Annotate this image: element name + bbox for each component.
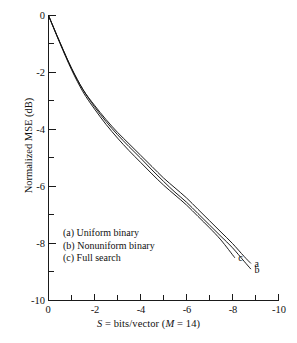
legend-entry-c: (c) Full search [63,252,155,265]
x-tick-label: -4 [137,304,146,315]
curve-end-label-c: c [238,252,243,263]
x-tick-label: -10 [272,304,286,315]
y-tick-label: -10 [31,295,45,306]
plot-canvas: 0 -2 -4 -6 -8 -10 0 -2 -4 -6 -8 -10 c a … [0,0,297,343]
y-tick-label: -4 [36,124,45,135]
curve-end-label-b: b [254,264,259,275]
legend-entry-a: (a) Uniform binary [63,227,155,240]
legend-entry-b: (b) Nonuniform binary [63,240,155,253]
y-tick-label: -2 [36,67,45,78]
curve-c-full-search [49,16,235,258]
x-axis-title-text: S = bits/vector (M = 14) [97,318,200,329]
y-axis-title: Normalized MSE (dB) [23,56,34,236]
curve-end-labels: c a b [238,252,259,274]
x-tick-label: -6 [183,304,192,315]
x-tick-label: 0 [45,304,50,315]
x-tick-labels: 0 -2 -4 -6 -8 -10 [45,304,286,315]
y-tick-label: 0 [40,10,45,21]
y-tick-label: -8 [36,238,45,249]
x-axis-ticks [49,294,279,301]
x-axis-title: S = bits/vector (M = 14) [0,318,297,329]
figure-container: 0 -2 -4 -6 -8 -10 0 -2 -4 -6 -8 -10 c a … [0,0,297,343]
y-tick-label: -6 [36,181,45,192]
legend: (a) Uniform binary (b) Nonuniform binary… [63,227,155,265]
x-tick-label: -2 [91,304,100,315]
y-axis-title-text: Normalized MSE (dB) [23,98,34,194]
x-tick-label: -8 [229,304,238,315]
y-axis-ticks [49,16,56,301]
